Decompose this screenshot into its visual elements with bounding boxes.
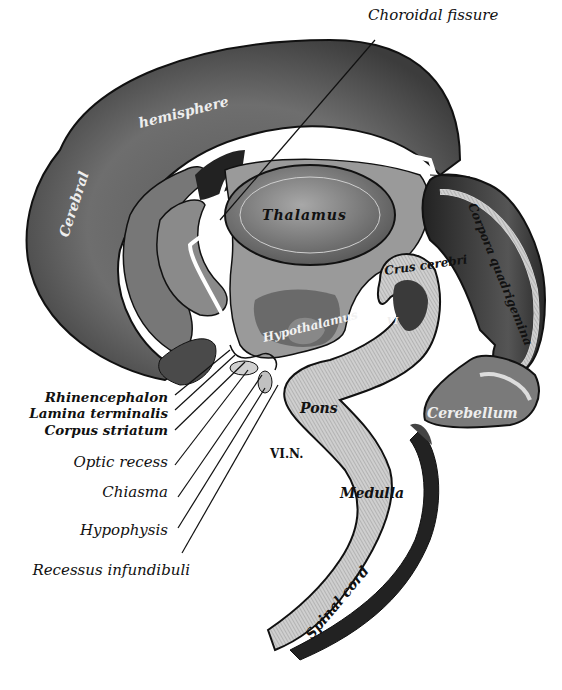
label-corpus-striatum: Corpus striatum xyxy=(44,422,168,438)
brain-sagittal-diagram: Choroidal fissure Rhinencephalon Lamina … xyxy=(0,0,562,690)
label-thalamus: Thalamus xyxy=(262,207,347,223)
label-lamina-terminalis: Lamina terminalis xyxy=(28,405,168,421)
label-cerebellum: Cerebellum xyxy=(427,405,518,421)
label-vi-n: VI.N. xyxy=(269,447,303,461)
label-recessus-infundibuli: Recessus infundibuli xyxy=(31,561,190,579)
label-rhinencephalon: Rhinencephalon xyxy=(44,389,168,405)
label-roman-vi: VI xyxy=(387,316,399,326)
label-chiasma: Chiasma xyxy=(102,483,168,501)
label-optic-recess: Optic recess xyxy=(73,453,168,471)
label-hypophysis: Hypophysis xyxy=(79,521,168,539)
label-choroidal-fissure: Choroidal fissure xyxy=(368,6,499,24)
label-medulla: Medulla xyxy=(339,485,404,501)
label-pons: Pons xyxy=(299,400,338,416)
